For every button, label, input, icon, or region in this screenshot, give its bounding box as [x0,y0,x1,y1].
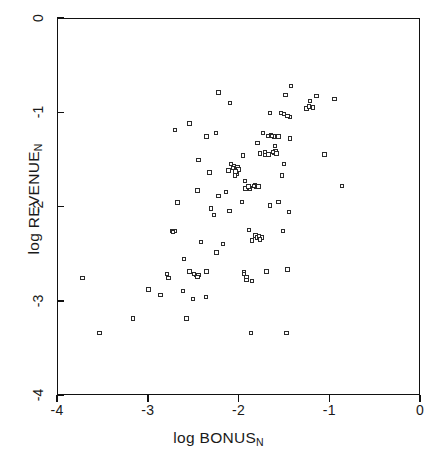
data-point [256,184,260,188]
data-point [173,128,177,132]
data-point [171,230,175,234]
data-point [242,272,246,276]
data-point [216,90,220,94]
data-point [289,84,293,88]
x-axis-title-subscript: N [256,436,264,448]
data-point [192,272,196,276]
data-point [276,134,280,138]
y-axis-title: log REVENUEN [25,79,43,319]
x-tick-label-4: 0 [400,402,437,418]
x-axis-title: log BONUSN [0,429,437,447]
data-point [214,250,218,254]
y-axis-title-subscript: N [32,144,44,152]
data-point [131,316,135,320]
y-tick-2 [57,206,64,208]
data-point [233,173,237,177]
data-point [182,257,186,261]
data-point [240,200,244,204]
data-point [199,240,203,244]
y-tick-label-4: 0 [24,10,52,26]
data-point [322,152,326,156]
data-point [227,209,231,213]
data-point [204,295,208,299]
data-point [224,190,228,194]
data-point [244,278,248,282]
x-tick-3 [329,395,331,402]
data-point [187,121,191,125]
data-point [308,99,312,103]
data-point [233,169,237,173]
x-axis-title-text: log BONUS [173,429,256,446]
data-point [287,210,291,214]
data-point [247,228,251,232]
x-tick-2 [238,395,240,402]
data-point [204,134,208,138]
data-point [241,153,245,157]
data-point [214,131,218,135]
data-point [250,279,254,283]
data-point [271,150,275,154]
data-point [264,269,268,273]
data-point [270,134,274,138]
data-point [252,184,256,188]
y-tick-label-0: -4 [24,387,52,403]
data-point [146,287,150,291]
data-point [243,179,247,183]
y-tick-4 [57,17,64,19]
data-point [280,173,284,177]
data-point [340,184,344,188]
data-point [204,269,208,273]
data-point [281,229,285,233]
data-point [284,331,288,335]
x-tick-4 [419,395,421,402]
scatter-plot-figure: -4-3-2-10 -4-3-2-10 log BONUSN log REVEN… [0,0,437,460]
plot-area-frame [57,18,420,395]
data-point [158,293,162,297]
data-point [249,331,253,335]
data-point [80,276,84,280]
x-tick-1 [147,395,149,402]
data-point [283,93,287,97]
data-point [181,289,185,293]
x-tick-label-2: -2 [219,402,259,418]
data-point [221,242,225,246]
data-point [268,111,272,115]
data-point [209,206,213,210]
data-point [285,267,289,271]
data-point [268,203,272,207]
data-point [261,131,265,135]
x-tick-0 [56,395,58,402]
data-point [196,158,200,162]
data-point [207,170,211,174]
y-tick-3 [57,112,64,114]
data-point [307,104,311,108]
data-point [282,112,286,116]
data-point [314,94,318,98]
y-tick-0 [57,394,64,396]
x-tick-label-1: -3 [128,402,168,418]
data-point [195,188,199,192]
data-point [250,238,254,242]
y-axis-title-text: log REVENUE [25,151,42,254]
x-tick-label-0: -4 [37,402,77,418]
data-point [184,316,188,320]
y-tick-1 [57,300,64,302]
data-point [166,276,170,280]
data-point [332,97,336,101]
data-point [258,237,262,241]
data-point [282,162,286,166]
data-point [255,141,259,145]
data-point [175,200,179,204]
data-point [288,136,292,140]
data-point [246,184,250,188]
data-point [276,200,280,204]
data-point [216,194,220,198]
data-point [191,297,195,301]
x-tick-label-3: -1 [309,402,349,418]
data-point [212,213,216,217]
data-point [97,331,101,335]
data-point [228,101,232,105]
